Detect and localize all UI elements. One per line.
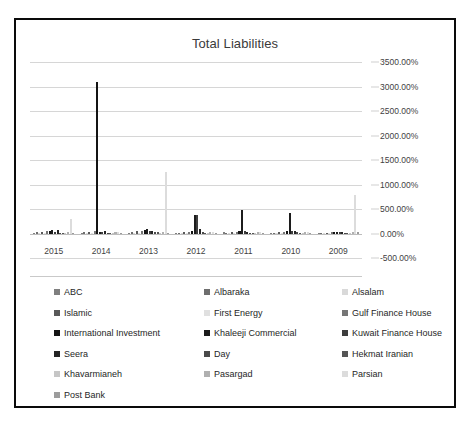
legend-swatch-icon bbox=[342, 330, 348, 336]
y-axis-tick-mark bbox=[371, 86, 379, 87]
legend-swatch-icon bbox=[342, 351, 348, 357]
legend-label: International Investment bbox=[64, 328, 160, 338]
y-axis-tick-label: -500.00% bbox=[380, 253, 416, 263]
legend-row: ABCAlbarakaAlsalam bbox=[54, 282, 446, 303]
legend-label: ABC bbox=[64, 287, 83, 297]
y-axis-tick-label: 500.00% bbox=[380, 204, 414, 214]
legend-swatch-icon bbox=[54, 289, 60, 295]
legend-item[interactable]: Parsian bbox=[342, 369, 446, 379]
legend-item[interactable]: Islamic bbox=[54, 308, 204, 318]
legend-label: Khavarmianeh bbox=[64, 369, 122, 379]
legend-item[interactable]: International Investment bbox=[54, 328, 204, 338]
y-axis-tick-label: 0.00% bbox=[380, 229, 404, 239]
legend-item[interactable]: Seera bbox=[54, 349, 204, 359]
legend-swatch-icon bbox=[54, 371, 60, 377]
y-axis-tick-label: 2500.00% bbox=[380, 106, 418, 116]
legend-swatch-icon bbox=[204, 371, 210, 377]
bar bbox=[357, 232, 359, 234]
y-axis-tick-label: 2000.00% bbox=[380, 131, 418, 141]
y-axis-tick-label: 3000.00% bbox=[380, 82, 418, 92]
gridline bbox=[30, 87, 362, 88]
legend-row: IslamicFirst EnergyGulf Finance House bbox=[54, 303, 446, 324]
legend-swatch-icon bbox=[54, 351, 60, 357]
x-axis-tick-label: 2010 bbox=[281, 246, 300, 256]
gridline bbox=[30, 209, 362, 210]
legend-swatch-icon bbox=[204, 330, 210, 336]
legend-row: International InvestmentKhaleeji Commerc… bbox=[54, 323, 446, 344]
bar bbox=[70, 219, 72, 234]
legend-label: Day bbox=[214, 349, 230, 359]
legend-row: Post Bank bbox=[54, 385, 446, 406]
gridline bbox=[30, 136, 362, 137]
chart-legend: ABCAlbarakaAlsalamIslamicFirst EnergyGul… bbox=[54, 282, 446, 405]
legend-label: Parsian bbox=[352, 369, 383, 379]
y-axis-tick-mark bbox=[371, 258, 379, 259]
legend-item[interactable]: Alsalam bbox=[342, 287, 446, 297]
bar bbox=[165, 172, 167, 233]
legend-label: Post Bank bbox=[64, 390, 105, 400]
gridline bbox=[30, 234, 362, 235]
bar bbox=[167, 233, 169, 234]
legend-row: KhavarmianehPasargadParsian bbox=[54, 364, 446, 385]
legend-label: Albaraka bbox=[214, 287, 250, 297]
gridline bbox=[30, 185, 362, 186]
legend-label: First Energy bbox=[214, 308, 263, 318]
y-axis-tick-label: 1000.00% bbox=[380, 180, 418, 190]
legend-swatch-icon bbox=[204, 310, 210, 316]
legend-item[interactable]: Albaraka bbox=[204, 287, 342, 297]
legend-label: Khaleeji Commercial bbox=[214, 328, 297, 338]
legend-label: Seera bbox=[64, 349, 88, 359]
bar bbox=[72, 233, 74, 234]
y-axis-tick-mark bbox=[371, 111, 379, 112]
legend-swatch-icon bbox=[342, 289, 348, 295]
legend-item[interactable]: Post Bank bbox=[54, 390, 204, 400]
y-axis-tick-label: 1500.00% bbox=[380, 155, 418, 165]
legend-label: Alsalam bbox=[352, 287, 384, 297]
legend-label: Kuwait Finance House bbox=[352, 328, 442, 338]
bar bbox=[215, 233, 217, 234]
legend-item[interactable]: Khaleeji Commercial bbox=[204, 328, 342, 338]
bar bbox=[354, 195, 356, 233]
bar bbox=[96, 82, 98, 234]
x-axis-tick-label: 2012 bbox=[187, 246, 206, 256]
y-axis-tick-mark bbox=[371, 135, 379, 136]
y-axis-tick-mark bbox=[371, 209, 379, 210]
legend-item[interactable]: Pasargad bbox=[204, 369, 342, 379]
legend-label: Pasargad bbox=[214, 369, 253, 379]
y-axis-tick-mark bbox=[371, 184, 379, 185]
gridline bbox=[30, 258, 362, 259]
x-axis-tick-label: 2013 bbox=[139, 246, 158, 256]
chart-frame: Total Liabilities 3500.00%3000.00%2500.0… bbox=[14, 18, 456, 408]
x-axis-tick-label: 2011 bbox=[234, 246, 252, 256]
bar bbox=[309, 233, 311, 234]
legend-item[interactable]: ABC bbox=[54, 287, 204, 297]
legend-item[interactable]: Khavarmianeh bbox=[54, 369, 204, 379]
x-axis-tick-label: 2009 bbox=[329, 246, 348, 256]
x-axis-tick-label: 2014 bbox=[92, 246, 111, 256]
plot-area: 3500.00%3000.00%2500.00%2000.00%1500.00%… bbox=[30, 62, 362, 258]
y-axis-tick-mark bbox=[371, 62, 379, 63]
legend-swatch-icon bbox=[54, 392, 60, 398]
legend-item[interactable]: Hekmat Iranian bbox=[342, 349, 446, 359]
legend-item[interactable]: First Energy bbox=[204, 308, 342, 318]
bar bbox=[120, 233, 122, 234]
legend-row: SeeraDayHekmat Iranian bbox=[54, 344, 446, 365]
legend-swatch-icon bbox=[54, 310, 60, 316]
gridline bbox=[30, 62, 362, 63]
x-axis-line bbox=[30, 276, 362, 277]
legend-label: Hekmat Iranian bbox=[352, 349, 413, 359]
legend-swatch-icon bbox=[342, 310, 348, 316]
gridline bbox=[30, 111, 362, 112]
bar bbox=[262, 233, 264, 234]
legend-item[interactable]: Gulf Finance House bbox=[342, 308, 446, 318]
legend-swatch-icon bbox=[342, 371, 348, 377]
gridline bbox=[30, 160, 362, 161]
y-axis-tick-mark bbox=[371, 160, 379, 161]
legend-swatch-icon bbox=[204, 351, 210, 357]
y-axis-tick-label: 3500.00% bbox=[380, 57, 418, 67]
y-axis-tick-mark bbox=[371, 233, 379, 234]
legend-item[interactable]: Kuwait Finance House bbox=[342, 328, 446, 338]
x-axis-tick-label: 2015 bbox=[44, 246, 63, 256]
legend-item[interactable]: Day bbox=[204, 349, 342, 359]
legend-swatch-icon bbox=[204, 289, 210, 295]
